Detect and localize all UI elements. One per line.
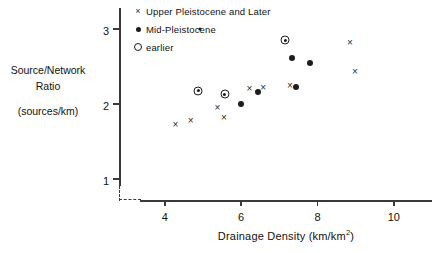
x-axis-break-dashed — [119, 199, 141, 200]
legend-label: earlier — [146, 42, 173, 53]
data-point: × — [352, 67, 358, 77]
x-tick-label-wrap: 6 — [229, 207, 253, 225]
x-axis-title: Drainage Density (km/km2) — [140, 228, 432, 242]
y-axis-title-line-3: (sources/km) — [2, 103, 94, 119]
y-axis-title-line-2: Ratio — [2, 78, 94, 94]
data-point: × — [173, 120, 179, 130]
y-tick-label: 3 — [103, 25, 109, 37]
marker-cross-icon: × — [135, 6, 140, 16]
data-point: × — [287, 81, 293, 91]
x-tick-label: 4 — [162, 211, 168, 223]
scatter-plot-figure: 123 46810 Source/Network Ratio (sources/… — [0, 0, 437, 253]
y-tick-label: 1 — [103, 175, 109, 187]
legend: ×Upper Pleistocene and LaterMid-Pleistoc… — [130, 2, 270, 56]
data-point — [194, 86, 203, 95]
x-tick-mark — [393, 200, 395, 206]
legend-item[interactable]: ×Upper Pleistocene and Later — [130, 2, 270, 20]
legend-item[interactable]: earlier — [130, 38, 270, 56]
y-tick-mark — [113, 103, 119, 105]
data-point: × — [215, 103, 221, 113]
y-tick-mark — [113, 178, 119, 180]
data-point — [307, 60, 313, 66]
y-axis-line — [119, 8, 121, 186]
y-tick-mark — [113, 28, 119, 30]
x-tick-mark — [164, 200, 166, 206]
data-point — [289, 55, 295, 61]
marker-filled-dot-icon — [136, 27, 141, 32]
y-tick-label-wrap: 3 — [95, 21, 109, 39]
data-point — [281, 36, 290, 45]
x-tick-label-wrap: 4 — [153, 207, 177, 225]
data-point — [255, 89, 261, 95]
data-point: × — [188, 116, 194, 126]
data-point — [220, 90, 229, 99]
x-tick-label: 6 — [238, 211, 244, 223]
legend-label: Upper Pleistocene and Later — [146, 6, 270, 17]
legend-marker — [130, 43, 146, 51]
legend-marker — [130, 27, 146, 32]
y-axis-title: Source/Network Ratio (sources/km) — [2, 62, 94, 119]
data-point — [238, 101, 244, 107]
x-tick-label-wrap: 8 — [305, 207, 329, 225]
y-tick-label-wrap: 2 — [95, 96, 109, 114]
x-tick-mark — [240, 200, 242, 206]
x-tick-label: 8 — [314, 211, 320, 223]
y-tick-label: 2 — [103, 100, 109, 112]
data-point — [293, 84, 299, 90]
data-point: × — [221, 113, 227, 123]
y-axis-title-line-1: Source/Network — [2, 62, 94, 78]
marker-circled-dot-icon — [134, 43, 142, 51]
x-axis-line — [140, 200, 432, 202]
y-tick-label-wrap: 1 — [95, 171, 109, 189]
data-point: × — [347, 38, 353, 48]
x-tick-label-wrap: 10 — [382, 207, 406, 225]
data-point: × — [247, 84, 253, 94]
x-tick-mark — [317, 200, 319, 206]
legend-marker: × — [130, 6, 146, 16]
x-tick-label: 10 — [388, 211, 400, 223]
legend-label: Mid-Pleistocene — [146, 24, 216, 35]
